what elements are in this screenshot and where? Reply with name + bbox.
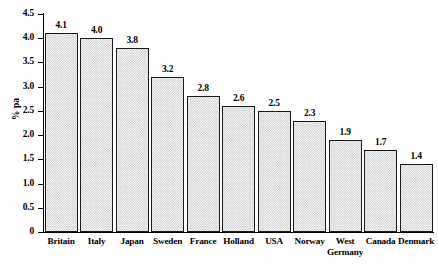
bar-value-label: 2.3 <box>287 109 332 119</box>
bar[interactable] <box>151 77 184 232</box>
bar-value-label: 3.2 <box>145 65 190 75</box>
bar[interactable] <box>222 106 255 232</box>
bar-value-label: 2.5 <box>252 99 297 109</box>
bars-layer: 4.1Britain4.0Italy3.8Japan3.2Sweden2.8Fr… <box>0 0 438 269</box>
bar[interactable] <box>400 164 433 232</box>
bar[interactable] <box>329 140 362 232</box>
bar[interactable] <box>80 38 113 232</box>
bar[interactable] <box>293 121 326 232</box>
bar[interactable] <box>258 111 291 232</box>
bar-value-label: 4.0 <box>74 26 119 36</box>
x-axis-category-label-line: Denmark <box>392 236 438 247</box>
bar-chart: % pa 00.51.01.52.02.53.03.54.04.5 4.1Bri… <box>0 0 438 269</box>
bar-value-label: 3.8 <box>110 36 155 46</box>
x-axis-category-label: Denmark <box>392 236 438 247</box>
bar-value-label: 1.7 <box>358 138 403 148</box>
bar[interactable] <box>45 33 78 232</box>
bar-value-label: 1.9 <box>323 128 368 138</box>
bar[interactable] <box>187 96 220 232</box>
bar-value-label: 1.4 <box>394 152 438 162</box>
x-axis-category-label-line: Germany <box>321 247 370 258</box>
bar-value-label: 2.8 <box>181 84 226 94</box>
bar[interactable] <box>116 48 149 232</box>
bar[interactable] <box>364 150 397 232</box>
